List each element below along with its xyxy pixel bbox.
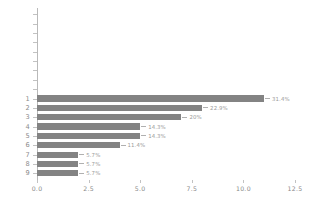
bar [37, 161, 78, 167]
y-axis-tick [33, 89, 37, 90]
y-axis-tick [33, 33, 37, 34]
x-axis-tick-label: 0.0 [32, 185, 43, 192]
bar [37, 105, 202, 111]
y-axis-category-label: 1 [0, 95, 30, 103]
bar [37, 133, 140, 139]
y-axis-category-label: 9 [0, 169, 30, 177]
bar [37, 152, 78, 158]
bar [37, 95, 264, 101]
bar-value-text: 20% [189, 114, 201, 120]
bar [37, 114, 181, 120]
x-axis-tick-label: 7.5 [186, 185, 197, 192]
bar-value-label: 14.3% [141, 133, 166, 139]
y-axis-category-label: 4 [0, 123, 30, 131]
y-axis-category-label: 2 [0, 104, 30, 112]
label-leader-line [141, 135, 146, 136]
y-axis-tick [33, 80, 37, 81]
x-axis-tick-label: 12.5 [288, 185, 303, 192]
label-leader-line [203, 107, 208, 108]
bar-value-label: 11.4% [121, 142, 146, 148]
bar-value-label: 31.4% [265, 96, 290, 102]
y-axis-tick [33, 70, 37, 71]
x-axis-tick [192, 180, 193, 183]
y-axis-tick [33, 61, 37, 62]
label-leader-line [79, 163, 84, 164]
x-axis-tick [140, 180, 141, 183]
bar-value-label: 5.7% [79, 170, 100, 176]
bar-chart: 0.02.55.07.510.012.5 123456789 31.4%22.9… [0, 0, 316, 209]
label-leader-line [121, 145, 126, 146]
bar-value-label: 20% [182, 114, 201, 120]
label-leader-line [182, 117, 187, 118]
bar [37, 170, 78, 176]
x-axis-tick-label: 5.0 [135, 185, 146, 192]
label-leader-line [141, 126, 146, 127]
label-leader-line [79, 154, 84, 155]
bar-value-text: 31.4% [272, 96, 290, 102]
bar-value-text: 22.9% [210, 105, 228, 111]
bar-value-text: 5.7% [86, 161, 100, 167]
x-axis-tick [243, 180, 244, 183]
bar-value-text: 11.4% [128, 142, 146, 148]
x-axis-tick-label: 2.5 [83, 185, 94, 192]
y-axis-category-label: 6 [0, 141, 30, 149]
x-axis-tick-label: 10.0 [236, 185, 251, 192]
y-axis-category-label: 5 [0, 132, 30, 140]
x-axis-tick [89, 180, 90, 183]
bar-value-label: 5.7% [79, 152, 100, 158]
bar-value-label: 22.9% [203, 105, 228, 111]
bar [37, 142, 120, 148]
bar-value-label: 14.3% [141, 124, 166, 130]
label-leader-line [79, 173, 84, 174]
bar-value-text: 5.7% [86, 152, 100, 158]
bar-value-label: 5.7% [79, 161, 100, 167]
bar-value-text: 5.7% [86, 170, 100, 176]
bar [37, 123, 140, 129]
label-leader-line [265, 98, 270, 99]
bar-value-text: 14.3% [148, 133, 166, 139]
bar-value-text: 14.3% [148, 124, 166, 130]
x-axis-tick [37, 180, 38, 183]
y-axis-category-label: 7 [0, 151, 30, 159]
y-axis-category-label: 3 [0, 113, 30, 121]
x-axis-tick [295, 180, 296, 183]
y-axis-tick [33, 14, 37, 15]
y-axis-tick [33, 52, 37, 53]
y-axis-tick [33, 24, 37, 25]
y-axis-category-label: 8 [0, 160, 30, 168]
y-axis-tick [33, 42, 37, 43]
